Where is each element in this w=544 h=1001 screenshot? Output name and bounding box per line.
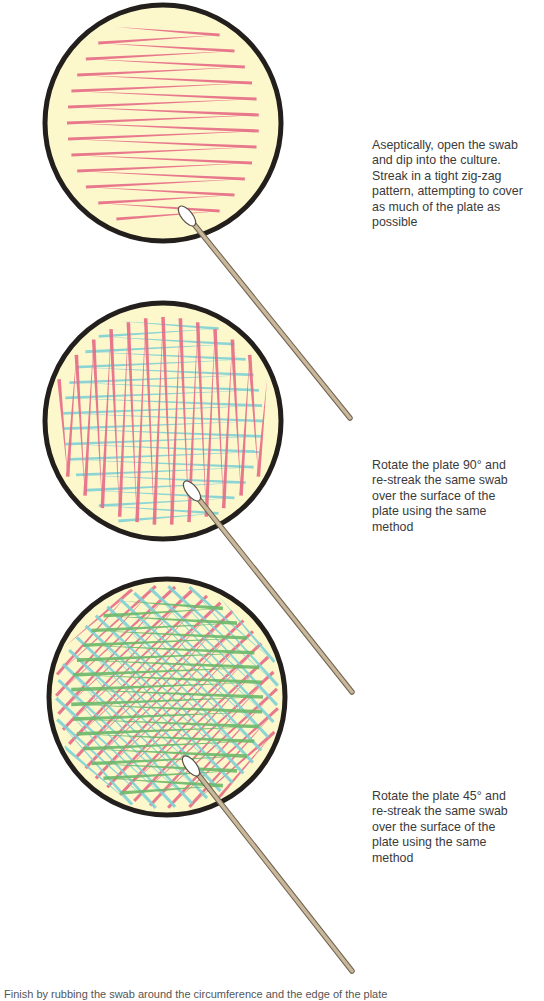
agar-plate-3 bbox=[13, 544, 321, 851]
instruction-line: possible bbox=[372, 215, 544, 230]
swab-3 bbox=[179, 753, 352, 971]
instruction-line: plate using the same bbox=[372, 504, 544, 519]
instruction-line: Rotate the plate 45° and bbox=[372, 789, 544, 804]
instruction-line: Streak in a tight zig-zag bbox=[372, 169, 544, 184]
instruction-line: and dip into the culture. bbox=[372, 153, 544, 168]
instruction-line: method bbox=[372, 851, 544, 866]
instruction-line: pattern, attempting to cover bbox=[372, 184, 544, 199]
instruction-line: method bbox=[372, 520, 544, 535]
step-2-instructions: Rotate the plate 90° and re-streak the s… bbox=[372, 458, 544, 535]
figure-caption: Finish by rubbing the swab around the ci… bbox=[4, 988, 544, 1001]
instruction-line: over the surface of the bbox=[372, 489, 544, 504]
step-1-instructions: Aseptically, open the swab and dip into … bbox=[372, 138, 544, 230]
agar-plate-2 bbox=[45, 303, 281, 539]
instruction-line: plate using the same bbox=[372, 835, 544, 850]
instruction-line: Rotate the plate 90° and bbox=[372, 458, 544, 473]
instruction-line: re-streak the same swab bbox=[372, 804, 544, 819]
step-3-instructions: Rotate the plate 45° and re-streak the s… bbox=[372, 789, 544, 866]
instruction-line: re-streak the same swab bbox=[372, 473, 544, 488]
instruction-line: over the surface of the bbox=[372, 820, 544, 835]
instruction-line: Aseptically, open the swab bbox=[372, 138, 544, 153]
agar-plate-1 bbox=[45, 5, 281, 241]
instruction-line: as much of the plate as bbox=[372, 200, 544, 215]
